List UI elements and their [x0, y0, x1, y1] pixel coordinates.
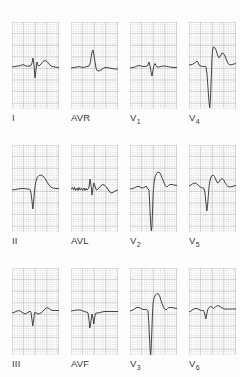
lead-label-v3: V3 [130, 358, 141, 370]
ecg-trace-v4 [189, 22, 236, 109]
ecg-trace-v6 [189, 268, 236, 355]
ecg-row-limb-leads-1: I AVR V1 V4 [0, 20, 240, 142]
lead-label-avl: AVL [71, 235, 89, 247]
ecg-waveform-path [71, 50, 118, 71]
lead-label-subscript: 5 [196, 241, 200, 248]
ecg-waveform-path [130, 294, 177, 356]
lead-label-v6: V6 [189, 358, 200, 370]
lead-label-i: I [12, 112, 15, 124]
ecg-waveform-path [130, 172, 177, 231]
lead-panel-v5 [189, 145, 236, 232]
ecg-waveform-path [71, 179, 118, 195]
lead-panel-iii [12, 268, 59, 355]
lead-label-text: V [189, 358, 196, 369]
lead-label-text: V [189, 112, 196, 123]
lead-label-text: V [130, 112, 137, 123]
lead-panel-ii [12, 145, 59, 232]
ecg-trace-i [12, 22, 59, 109]
ecg-trace-v3 [130, 268, 177, 355]
ecg-waveform-path [189, 175, 236, 211]
lead-label-v4: V4 [189, 112, 200, 124]
ecg-waveform-path [71, 310, 118, 328]
lead-label-subscript: 3 [137, 364, 141, 371]
lead-panel-avr [71, 22, 118, 109]
ecg-waveform-path [12, 308, 59, 327]
ecg-trace-v2 [130, 145, 177, 232]
ecg-waveform-path [12, 175, 59, 209]
ecg-trace-iii [12, 268, 59, 355]
lead-label-v1: V1 [130, 112, 141, 124]
lead-label-text: III [12, 358, 21, 369]
lead-label-ii: II [12, 235, 18, 247]
lead-label-text: V [130, 358, 137, 369]
lead-panel-avf [71, 268, 118, 355]
lead-panel-v3 [130, 268, 177, 355]
lead-label-text: V [130, 235, 137, 246]
lead-label-subscript: 2 [137, 241, 141, 248]
ecg-waveform-path [189, 47, 236, 108]
lead-label-text: I [12, 112, 15, 123]
lead-panel-avl [71, 145, 118, 232]
lead-label-subscript: 1 [137, 118, 141, 125]
lead-label-v2: V2 [130, 235, 141, 247]
lead-panel-i [12, 22, 59, 109]
lead-label-text: AVR [71, 112, 90, 123]
ecg-waveform-path [130, 62, 177, 76]
ecg-waveform-path [189, 306, 236, 320]
lead-label-text: AVL [71, 235, 89, 246]
lead-label-subscript: 6 [196, 364, 200, 371]
lead-panel-v4 [189, 22, 236, 109]
lead-panel-v6 [189, 268, 236, 355]
lead-panel-v1 [130, 22, 177, 109]
ecg-row-limb-leads-2: II AVL V2 V5 [0, 143, 240, 265]
ecg-trace-v1 [130, 22, 177, 109]
lead-label-avf: AVF [71, 358, 89, 370]
ecg-row-limb-leads-3: III AVF V3 V6 [0, 266, 240, 377]
twelve-lead-ecg-figure: I AVR V1 V4 [0, 0, 240, 377]
lead-label-text: II [12, 235, 18, 246]
lead-label-text: V [189, 235, 196, 246]
ecg-trace-avl [71, 145, 118, 232]
ecg-trace-ii [12, 145, 59, 232]
lead-label-subscript: 4 [196, 118, 200, 125]
lead-label-text: AVF [71, 358, 89, 369]
lead-label-avr: AVR [71, 112, 90, 124]
ecg-waveform-path [12, 58, 59, 78]
ecg-trace-avr [71, 22, 118, 109]
lead-label-iii: III [12, 358, 21, 370]
ecg-trace-avf [71, 268, 118, 355]
lead-panel-v2 [130, 145, 177, 232]
lead-label-v5: V5 [189, 235, 200, 247]
ecg-trace-v5 [189, 145, 236, 232]
